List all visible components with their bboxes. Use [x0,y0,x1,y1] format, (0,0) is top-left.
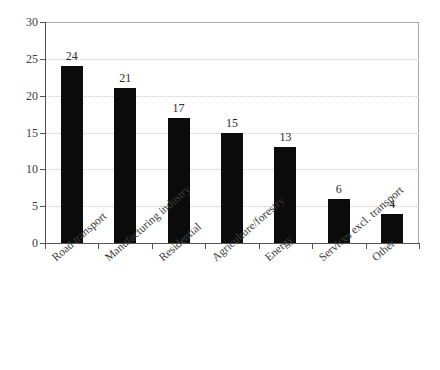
x-axis-tick-mark [45,244,46,249]
bar-data-label: 6 [319,183,359,195]
y-axis-tick-mark [40,22,45,23]
gridline [46,59,419,60]
y-axis-tick-label: 15 [4,127,38,139]
bar [381,214,403,243]
bar-data-label: 17 [159,102,199,114]
bar [168,118,190,243]
x-axis-tick-mark [366,244,367,249]
y-axis-tick-mark [40,59,45,60]
y-axis-tick-mark [40,96,45,97]
y-axis-tick-label: 10 [4,163,38,175]
y-axis-tick-label: 20 [4,90,38,102]
bar [61,66,83,243]
y-axis-tick-labels: 302520151050 [0,0,38,370]
y-axis-tick-mark [40,133,45,134]
x-axis-tick-mark [98,244,99,249]
x-axis-tick-mark [259,244,260,249]
bar-data-label: 24 [52,50,92,62]
x-axis-tick-mark [152,244,153,249]
x-axis-tick-mark [312,244,313,249]
bar-chart: 302520151050 242117151364 Road transport… [0,0,440,370]
y-axis-tick-mark [40,206,45,207]
x-axis-tick-mark [205,244,206,249]
bar [114,88,136,243]
gridline [46,96,419,97]
y-axis-tick-label: 30 [4,16,38,28]
y-axis-tick-label: 5 [4,200,38,212]
bar-data-label: 13 [265,131,305,143]
x-axis-tick-mark [419,244,420,249]
y-axis-tick-mark [40,169,45,170]
bar-data-label: 15 [212,117,252,129]
bar-data-label: 21 [105,72,145,84]
y-axis-tick-label: 25 [4,53,38,65]
y-axis-tick-label: 0 [4,237,38,249]
